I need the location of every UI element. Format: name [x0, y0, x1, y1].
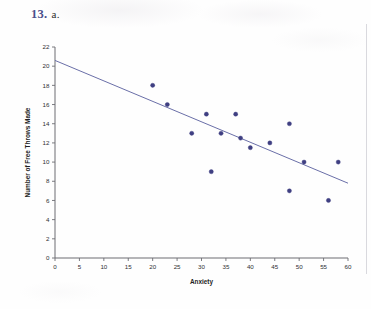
regression-line-group	[55, 60, 348, 183]
data-point	[209, 170, 213, 174]
data-point	[248, 146, 252, 150]
y-tick-label: 20	[43, 62, 50, 69]
x-tick-label: 50	[296, 263, 303, 270]
x-axis-title: Anxiety	[190, 278, 214, 286]
y-tick-label: 22	[43, 43, 50, 50]
data-point	[302, 160, 306, 164]
x-tick-label: 55	[320, 263, 327, 270]
x-tick-label: 15	[125, 263, 132, 270]
data-point	[190, 131, 194, 135]
x-tick-label: 10	[100, 263, 107, 270]
data-point	[165, 102, 169, 106]
data-point	[287, 189, 291, 193]
scatter-plot-svg: 0246810121416182022051015202530354045505…	[0, 0, 371, 309]
y-tick-label: 14	[43, 120, 50, 127]
data-point	[336, 160, 340, 164]
data-point	[219, 131, 223, 135]
y-tick-label: 0	[46, 254, 50, 261]
scatter-plot: 0246810121416182022051015202530354045505…	[0, 0, 371, 309]
data-point	[234, 112, 238, 116]
y-tick-label: 8	[46, 177, 50, 184]
data-point	[238, 136, 242, 140]
x-tick-label: 25	[174, 263, 181, 270]
x-tick-label: 20	[149, 263, 156, 270]
axes-group	[52, 47, 348, 261]
x-tick-label: 60	[345, 263, 352, 270]
y-axis-title: Number of Free Throws Made	[24, 107, 31, 197]
data-point	[326, 198, 330, 202]
data-point	[268, 141, 272, 145]
data-point	[287, 122, 291, 126]
x-tick-label: 5	[78, 263, 82, 270]
regression-line	[55, 60, 348, 183]
x-tick-label: 0	[53, 263, 57, 270]
y-tick-label: 2	[46, 235, 50, 242]
y-tick-label: 12	[43, 139, 50, 146]
data-point	[151, 83, 155, 87]
x-tick-label: 35	[222, 263, 229, 270]
data-point	[204, 112, 208, 116]
x-tick-label: 30	[198, 263, 205, 270]
x-tick-label: 45	[271, 263, 278, 270]
y-tick-label: 10	[43, 158, 50, 165]
data-points-group	[151, 83, 341, 202]
y-tick-label: 4	[46, 216, 50, 223]
y-tick-label: 6	[46, 197, 50, 204]
y-tick-label: 16	[43, 101, 50, 108]
y-tick-label: 18	[43, 82, 50, 89]
x-tick-label: 40	[247, 263, 254, 270]
